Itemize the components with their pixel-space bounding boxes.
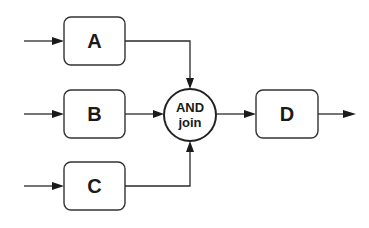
output-arrow-d bbox=[318, 110, 356, 118]
node-a-label: A bbox=[87, 30, 101, 52]
node-c[interactable]: C bbox=[64, 162, 125, 210]
node-b-label: B bbox=[87, 103, 101, 125]
edge-join-to-d bbox=[216, 110, 256, 118]
workflow-diagram: A B C AND join D bbox=[0, 0, 369, 228]
edge-c-to-join bbox=[125, 141, 194, 186]
node-d-label: D bbox=[280, 103, 294, 125]
and-join-label-line2: join bbox=[177, 115, 201, 130]
and-join-label-line1: AND bbox=[176, 100, 204, 115]
node-d[interactable]: D bbox=[256, 90, 318, 138]
edge-a-to-join bbox=[125, 41, 194, 89]
node-c-label: C bbox=[87, 175, 101, 197]
node-b[interactable]: B bbox=[64, 90, 125, 138]
edge-b-to-join bbox=[125, 110, 164, 118]
input-arrow-c bbox=[24, 182, 64, 190]
input-arrow-a bbox=[24, 37, 64, 45]
and-join-node[interactable]: AND join bbox=[164, 89, 216, 141]
input-arrow-b bbox=[24, 110, 64, 118]
node-a[interactable]: A bbox=[64, 17, 125, 65]
